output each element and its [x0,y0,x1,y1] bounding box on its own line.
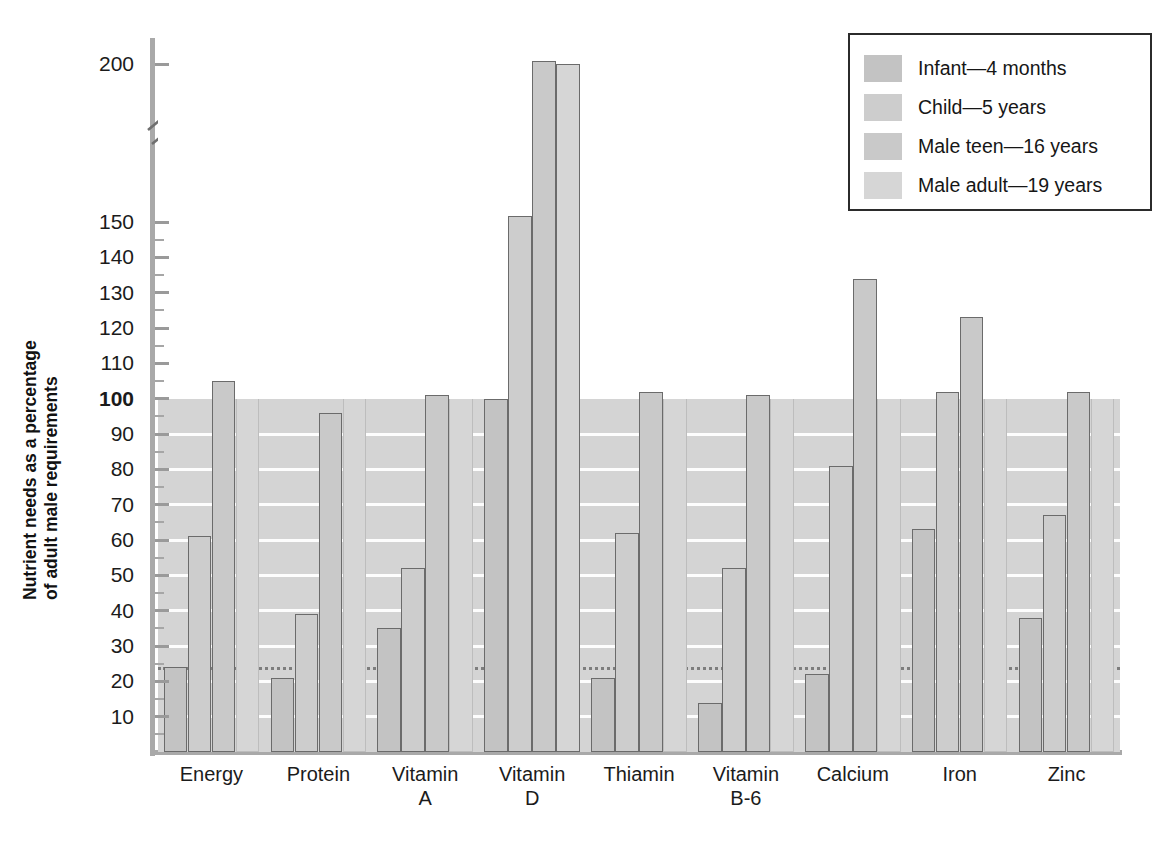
y-tick [155,433,169,436]
bar [853,279,877,752]
bar [532,61,556,752]
figure-caption [78,824,1098,844]
y-tick [155,539,169,542]
y-tick-minor [155,415,164,417]
bar [639,392,663,752]
bar [236,399,260,752]
bar [770,399,794,752]
y-tick-minor [155,309,164,311]
bar [484,399,508,752]
bar [1043,515,1067,752]
bar [805,674,829,752]
y-axis-title: Nutrient needs as a percentage of adult … [20,160,64,600]
legend-label: Male adult—19 years [918,174,1102,197]
bar [698,703,722,752]
y-tick-label: 40 [62,600,134,621]
x-axis-label-line1: Zinc [997,762,1137,786]
y-tick [155,574,169,577]
bar [271,678,295,752]
y-tick [155,291,169,294]
y-tick [155,680,169,683]
bar [556,64,580,752]
y-tick [155,609,169,612]
y-tick-label: 110 [62,352,134,373]
y-tick [155,362,169,365]
bar [829,466,853,752]
bar [212,381,236,752]
y-axis-title-line1: Nutrient needs as a percentage [20,160,41,600]
y-axis-title-line2: of adult male requirements [41,160,62,600]
y-tick-label: 140 [62,246,134,267]
x-axis-label-line2: D [462,786,602,810]
legend-swatch [864,172,902,199]
x-axis-label-line2: B-6 [676,786,816,810]
y-tick-minor [155,627,164,629]
legend-swatch [864,133,902,160]
y-tick-label: 200 [62,53,134,74]
bar [615,533,639,752]
legend-label: Child—5 years [918,96,1046,119]
y-tick [155,468,169,471]
legend: Infant—4 monthsChild—5 yearsMale teen—16… [848,33,1152,211]
y-tick [155,256,169,259]
y-tick [155,503,169,506]
y-tick-label: 60 [62,529,134,550]
y-tick-minor [155,486,164,488]
y-tick-label: 50 [62,564,134,585]
bar [722,568,746,752]
y-tick-label: 130 [62,282,134,303]
y-tick-minor [155,380,164,382]
y-tick-minor [155,557,164,559]
legend-swatch [864,94,902,121]
y-tick-label: 100 [62,388,134,409]
bar [877,399,901,752]
y-tick-minor [155,733,164,735]
y-tick-label: 90 [62,423,134,444]
bar [449,399,473,752]
y-tick-minor [155,698,164,700]
y-tick [155,715,169,718]
y-tick-label: 20 [62,670,134,691]
legend-swatch [864,55,902,82]
x-axis-label: Zinc [997,762,1137,786]
bar [401,568,425,752]
legend-item: Male adult—19 years [864,166,1138,205]
y-tick [155,327,169,330]
nutrient-needs-bar-chart: Nutrient needs as a percentage of adult … [0,0,1169,846]
y-tick-minor [155,592,164,594]
bar [912,529,936,752]
y-tick [155,221,169,224]
legend-label: Infant—4 months [918,57,1067,80]
y-tick [155,63,169,66]
y-tick-label: 80 [62,458,134,479]
bar [960,317,984,752]
y-tick-minor [155,521,164,523]
y-tick-label: 70 [62,494,134,515]
y-tick [155,645,169,648]
y-tick [155,397,169,400]
y-tick-minor [155,239,164,241]
bar [1019,618,1043,752]
bar [188,536,212,752]
bar [984,399,1008,752]
y-tick-label: 10 [62,706,134,727]
bar [508,216,532,752]
y-tick-minor [155,345,164,347]
legend-label: Male teen—16 years [918,135,1098,158]
bar [1067,392,1091,752]
bar [591,678,615,752]
legend-item: Child—5 years [864,88,1138,127]
bar [746,395,770,752]
bar [936,392,960,752]
bar [319,413,343,752]
bar [1091,399,1115,752]
bar [377,628,401,752]
bar [425,395,449,752]
bar [295,614,319,752]
legend-item: Male teen—16 years [864,127,1138,166]
y-tick-label: 120 [62,317,134,338]
y-tick-minor [155,274,164,276]
legend-item: Infant—4 months [864,49,1138,88]
y-tick-minor [155,451,164,453]
y-tick-minor [155,663,164,665]
